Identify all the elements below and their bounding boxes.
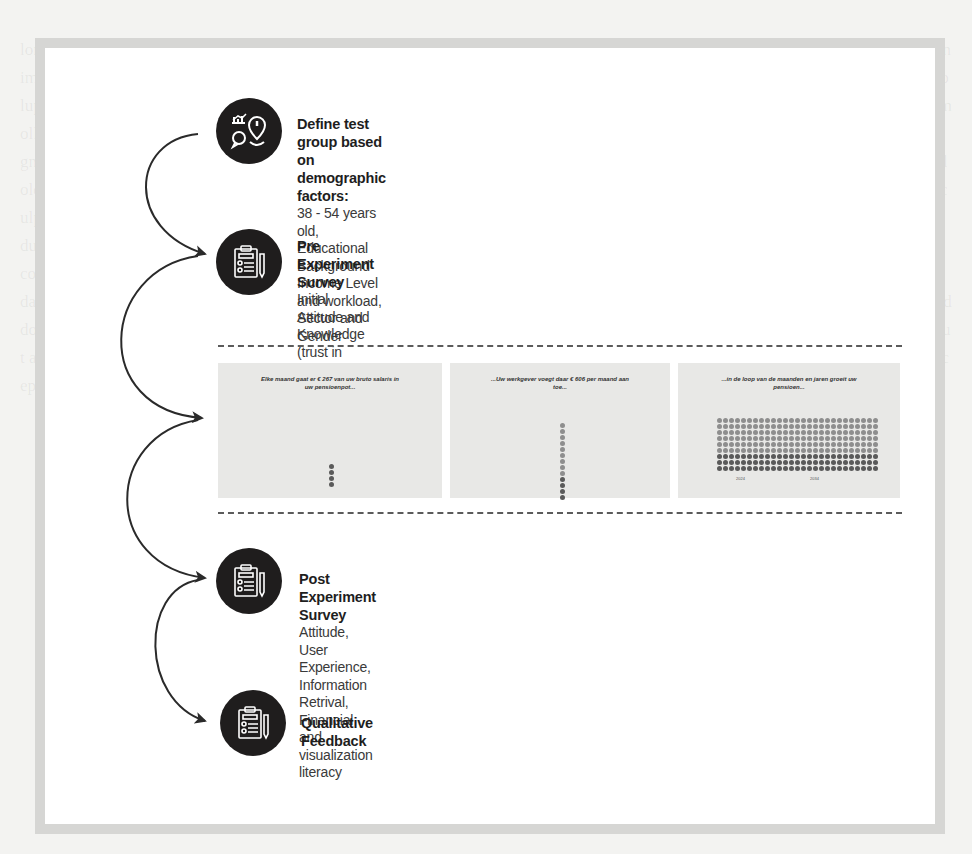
grid-dot (753, 454, 758, 459)
grid-dot (771, 418, 776, 423)
grid-dot (807, 448, 812, 453)
grid-dot (735, 466, 740, 471)
grid-dot (843, 442, 848, 447)
grid-dot (813, 436, 818, 441)
arrow-step1-to-step2 (146, 134, 205, 254)
grid-dot (831, 442, 836, 447)
grid-dot (873, 436, 878, 441)
grid-dot (783, 424, 788, 429)
grid-dot (801, 424, 806, 429)
grid-dot (795, 436, 800, 441)
grid-dot (849, 424, 854, 429)
grid-dot (813, 460, 818, 465)
grid-dot (849, 430, 854, 435)
grid-dot (759, 424, 764, 429)
grid-dot (843, 436, 848, 441)
grid-dot (849, 418, 854, 423)
grid-dot (837, 436, 842, 441)
grid-dot (843, 460, 848, 465)
grid-dot (813, 430, 818, 435)
grid-dot (801, 442, 806, 447)
grid-dot (717, 424, 722, 429)
grid-dot (855, 454, 860, 459)
grid-dot (753, 418, 758, 423)
dot-grid (717, 418, 878, 471)
grid-dot (741, 454, 746, 459)
grid-dot (807, 454, 812, 459)
grid-dot (753, 466, 758, 471)
grid-dot (831, 430, 836, 435)
step-description-line: Attitude, User Experience, Information R… (299, 624, 376, 712)
grid-dot (861, 442, 866, 447)
grid-dot (813, 442, 818, 447)
grid-dot (717, 448, 722, 453)
step-title: Define test group based on demographic f… (297, 115, 386, 205)
grid-dot (849, 436, 854, 441)
grid-dot (861, 418, 866, 423)
grid-dot (741, 418, 746, 423)
grid-dot (723, 466, 728, 471)
grid-dot (777, 418, 782, 423)
grid-dot (849, 442, 854, 447)
visualization-panel-2: ...Uw werkgever voegt daar € 606 per maa… (450, 363, 670, 498)
grid-dot (873, 460, 878, 465)
grid-dot (747, 424, 752, 429)
grid-dot (741, 448, 746, 453)
grid-dot (765, 454, 770, 459)
grid-dot (735, 418, 740, 423)
grid-dot (831, 454, 836, 459)
axis-label: 2034 (810, 476, 819, 481)
grid-dot (855, 424, 860, 429)
grid-dot (801, 466, 806, 471)
grid-dot (819, 448, 824, 453)
grid-dot (741, 466, 746, 471)
grid-dot (813, 448, 818, 453)
grid-dot (819, 430, 824, 435)
grid-dot (735, 460, 740, 465)
grid-dot (771, 454, 776, 459)
grid-dot (849, 466, 854, 471)
grid-dot (849, 448, 854, 453)
grid-dot (831, 448, 836, 453)
grid-dot (783, 460, 788, 465)
panel-caption: Elke maand gaat er € 267 van uw bruto sa… (218, 375, 442, 391)
grid-dot (843, 418, 848, 423)
grid-dot (783, 430, 788, 435)
grid-dot (855, 418, 860, 423)
grid-dot (837, 454, 842, 459)
grid-dot (867, 424, 872, 429)
grid-dot (861, 454, 866, 459)
grid-dot (765, 448, 770, 453)
grid-dot (813, 466, 818, 471)
grid-dot (789, 454, 794, 459)
grid-dot (873, 448, 878, 453)
grid-dot (831, 418, 836, 423)
grid-dot (867, 436, 872, 441)
grid-dot (837, 448, 842, 453)
dot-column (329, 464, 334, 487)
grid-dot (729, 460, 734, 465)
grid-dot (831, 460, 836, 465)
analytics-location-icon (216, 98, 282, 164)
grid-dot (819, 418, 824, 423)
dashed-separator-top (218, 345, 902, 347)
grid-dot (735, 436, 740, 441)
grid-dot (717, 454, 722, 459)
grid-dot (837, 460, 842, 465)
grid-dot (831, 436, 836, 441)
grid-dot (867, 460, 872, 465)
grid-dot (753, 436, 758, 441)
grid-dot (795, 466, 800, 471)
grid-dot (801, 460, 806, 465)
grid-dot (825, 418, 830, 423)
grid-dot (825, 460, 830, 465)
grid-dot (801, 454, 806, 459)
dot-column (560, 423, 565, 500)
grid-dot (867, 466, 872, 471)
grid-dot (795, 442, 800, 447)
grid-dot (795, 454, 800, 459)
grid-dot (759, 430, 764, 435)
grid-dot (747, 460, 752, 465)
grid-dot (813, 418, 818, 423)
grid-dot (723, 436, 728, 441)
